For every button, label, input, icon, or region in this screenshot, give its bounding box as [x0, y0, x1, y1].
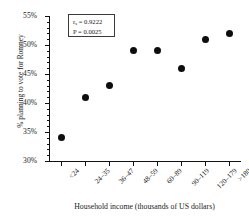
x-tick-major [61, 162, 62, 166]
y-tick-label: 30% [23, 157, 37, 165]
x-tick-label: >180 [236, 167, 249, 184]
data-point [58, 134, 65, 141]
y-tick-label: 50% [23, 41, 37, 49]
x-tick-major [205, 162, 206, 166]
x-tick-label: 120–179 [215, 167, 239, 191]
y-axis-tick-labels: 30%35%40%45%50%55% [0, 16, 44, 162]
x-tick-label: 48–59 [141, 167, 160, 186]
data-point [202, 36, 209, 43]
x-tick-major [229, 162, 230, 166]
y-tick-label: 55% [23, 12, 37, 20]
x-tick-major [85, 162, 86, 166]
data-point [178, 65, 185, 72]
p-value-statistic: P = 0.0025 [73, 27, 114, 36]
x-tick-label: 36–47 [117, 167, 136, 186]
data-point [82, 94, 89, 101]
stat-value: = 0.9222 [77, 18, 102, 25]
correlation-statistic: rs = 0.9222 [73, 17, 114, 27]
x-tick-label: 90–119 [190, 167, 211, 188]
x-tick-major [157, 162, 158, 166]
x-tick-label: <24 [67, 167, 81, 181]
data-point [154, 47, 161, 54]
y-tick-label: 40% [23, 99, 37, 107]
y-tick-label: 35% [23, 128, 37, 136]
x-axis-title: Household income (thousands of US dollar… [40, 202, 249, 212]
stat-subscript: s [75, 21, 77, 26]
y-tick-label: 45% [23, 70, 37, 78]
x-tick-major [181, 162, 182, 166]
plot-area [49, 16, 241, 161]
x-axis-tick-labels: <2424–3536–4748–5960–8990–119120–179>180 [49, 167, 241, 197]
x-tick-major [133, 162, 134, 166]
x-tick-label: 60–89 [165, 167, 184, 186]
x-tick-label: 24–35 [93, 167, 112, 186]
data-point [106, 82, 113, 89]
data-point [226, 30, 233, 37]
statistics-annotation-box: rs = 0.9222 P = 0.0025 [68, 14, 115, 37]
x-tick-major [109, 162, 110, 166]
data-point [130, 47, 137, 54]
scatter-plot-figure: % planning to vote for Romney 30%35%40%4… [0, 0, 249, 222]
